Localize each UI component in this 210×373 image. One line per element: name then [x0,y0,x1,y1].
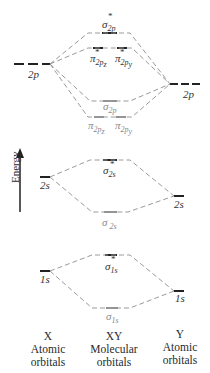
column-x-caption: X Atomic orbitals [18,330,78,369]
svg-text:*: * [120,47,125,57]
column-y-name: Y [152,328,208,341]
left-1s-label: 1s [40,273,50,285]
energy-axis-label: Energy [9,151,21,183]
svg-text:σ2s: σ2s [102,216,117,231]
sigma-2p-label: σ2p [103,100,116,115]
right-2s-label: 2s [174,198,184,210]
svg-text:σ1s: σ1s [106,310,119,325]
connectors-2p [50,33,170,117]
sigma-1s-label: σ1s [106,310,119,325]
pi-2py-label: π2py [115,119,133,136]
left-2s-label: 2s [40,179,50,191]
column-y-caption: Y Atomic orbitals [152,328,208,367]
sigma-star-2p-label: σ2p * [102,11,115,33]
sigma-2s-label: σ2s [102,216,117,231]
column-xy-caption: XY Molecular orbitals [84,330,144,369]
svg-text:σ2p: σ2p [103,100,116,115]
column-xy-desc-line2: orbitals [84,356,144,369]
column-xy-name: XY [84,330,144,343]
svg-text:*: * [110,159,115,169]
svg-text:*: * [95,47,100,57]
svg-text:*: * [111,254,116,264]
svg-text:π2pz: π2pz [88,119,106,136]
left-2p-label: 2p [28,68,40,80]
svg-text:*: * [108,11,113,21]
column-y-desc-line1: Atomic [152,341,208,354]
right-2p-label: 2p [183,88,195,100]
column-x-desc-line1: Atomic [18,343,78,356]
column-xy-desc-line1: Molecular [84,343,144,356]
pi-2pz-label: π2pz [88,119,106,136]
mo-diagram: 2p 2p σ2p * π2pz * π2py * σ2p π2pz π2py … [0,0,210,373]
pi-star-2pz-label: π2pz * [90,47,108,69]
sigma-star-1s-label: σ1s * [105,254,118,275]
column-x-name: X [18,330,78,343]
svg-text:π2py: π2py [115,119,133,136]
sigma-star-2s-label: σ2s * [103,159,116,179]
column-y-desc-line2: orbitals [152,354,208,367]
right-1s-label: 1s [175,292,185,304]
pi-star-2py-label: π2py * [115,47,133,69]
column-x-desc-line2: orbitals [18,356,78,369]
